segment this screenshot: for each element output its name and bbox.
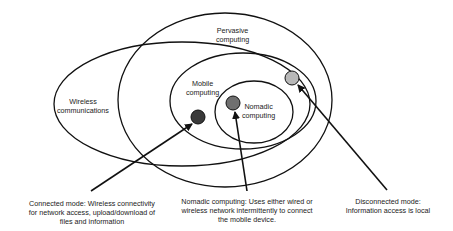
nomadic-annotation: Nomadic computing: Uses either wired or … [177, 197, 317, 224]
nomadic-line2: wireless network intermittently to conne… [177, 206, 317, 215]
mobile-label-line1: Mobile [186, 79, 219, 88]
pervasive-label-line1: Pervasive [216, 26, 249, 35]
nomadic-label-line1: Nomadic [242, 102, 275, 111]
connected-line2: for network access, upload/download of [26, 208, 158, 217]
pervasive-label-line2: computing [216, 35, 249, 44]
nomadic-line3: the mobile device. [177, 215, 317, 224]
wireless-label-line1: Wireless [57, 97, 109, 106]
disconnected-mode-annotation: Disconnected mode: Information access is… [340, 197, 436, 215]
disconnected-line2: Information access is local [340, 206, 436, 215]
connected-line1: Connected mode: Wireless connectivity [26, 199, 158, 208]
connected-line3: files and information [26, 217, 158, 226]
wireless-label: Wireless communications [57, 97, 109, 115]
nomadic-label: Nomadic computing [242, 102, 275, 120]
disconnected-arrow [298, 85, 387, 190]
nomadic-dot [226, 96, 240, 110]
nomadic-label-line2: computing [242, 111, 275, 120]
mobile-computing-ellipse [170, 53, 316, 149]
wireless-label-line2: communications [57, 106, 109, 115]
connected-mode-dot [191, 110, 205, 124]
disconnected-line1: Disconnected mode: [340, 197, 436, 206]
mobile-label: Mobile computing [186, 79, 219, 97]
nomadic-line1: Nomadic computing: Uses either wired or [177, 197, 317, 206]
disconnected-mode-dot [285, 71, 299, 85]
pervasive-label: Pervasive computing [216, 26, 249, 44]
connected-arrow [91, 124, 192, 191]
nomadic-arrow [235, 112, 247, 191]
connected-mode-annotation: Connected mode: Wireless connectivity fo… [26, 199, 158, 226]
mobile-label-line2: computing [186, 88, 219, 97]
